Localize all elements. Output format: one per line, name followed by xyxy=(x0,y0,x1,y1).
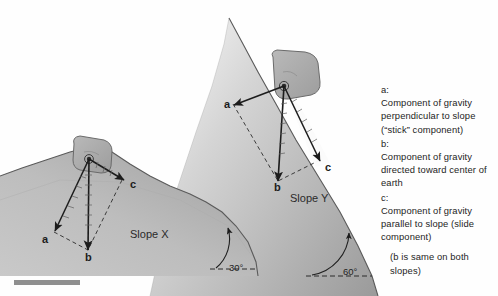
slope-x-vector-label-a: a xyxy=(42,233,48,245)
slope-y-name-label: Slope Y xyxy=(290,192,328,204)
legend-desc-b: Component of gravity directed toward cen… xyxy=(381,150,493,190)
legend-desc-c: Component of gravity parallel to slope (… xyxy=(381,204,493,244)
slope-y-boulder xyxy=(272,50,320,99)
legend-key-a: a: xyxy=(381,83,493,96)
legend-note: (b is same on both slopes) xyxy=(390,250,493,276)
figure-root: a b c a b c Slope X Slope Y 30° 60° a: C… xyxy=(0,0,498,296)
slope-y-vector-label-b: b xyxy=(274,181,281,193)
legend-key-b: b: xyxy=(381,137,493,150)
slope-y-vector-label-a: a xyxy=(224,98,230,110)
slope-x-vector-label-b: b xyxy=(85,251,92,263)
scan-artifact-bar xyxy=(14,280,80,285)
slope-y-angle-label: 60° xyxy=(343,266,357,277)
legend-block: a: Component of gravity perpendicular to… xyxy=(381,83,493,277)
slope-y-vector-label-c: c xyxy=(325,161,331,173)
legend-desc-a: Component of gravity perpendicular to sl… xyxy=(381,96,493,136)
legend-key-c: c: xyxy=(381,191,493,204)
slope-x-angle-label: 30° xyxy=(229,262,243,273)
slope-x-boulder xyxy=(73,136,112,173)
slope-x-name-label: Slope X xyxy=(130,228,169,240)
slope-x-vector-label-c: c xyxy=(130,178,136,190)
